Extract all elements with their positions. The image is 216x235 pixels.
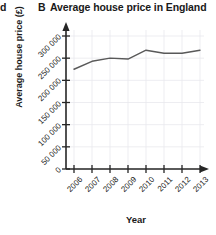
- chart-figure: d B Average house price in England Avera…: [0, 0, 216, 235]
- gridlines: [66, 30, 204, 169]
- data-line-series: [74, 50, 200, 69]
- axis-lines: [62, 22, 209, 173]
